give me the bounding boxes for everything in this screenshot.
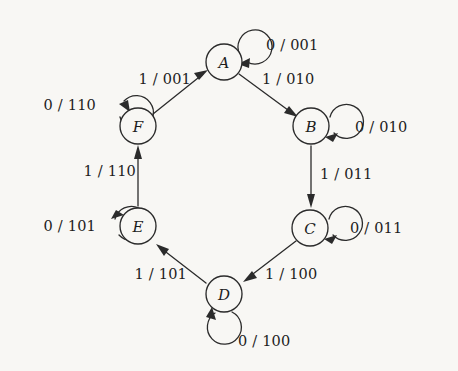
edge-label-c-to-d: 1 / 100 [265, 266, 317, 282]
state-label-f: F [132, 118, 144, 136]
self-loop-label-b: 0 / 010 [355, 119, 407, 135]
edge-d-to-e-arrowhead [156, 244, 169, 256]
self-loop-label-d: 0 / 100 [238, 333, 290, 349]
edge-label-f-to-a: 1 / 001 [139, 71, 191, 87]
edge-f-to-a-arrowhead [194, 70, 208, 80]
edge-label-a-to-b: 1 / 010 [262, 71, 314, 87]
self-loop-label-a: 0 / 001 [266, 37, 318, 53]
edge-e-to-f-arrowhead [134, 145, 142, 159]
self-loop-label-e: 0 / 101 [44, 218, 96, 234]
state-node-f[interactable]: F [120, 108, 156, 144]
state-label-b: B [304, 118, 316, 136]
state-label-d: D [217, 286, 230, 304]
self-loop-label-c: 0 / 011 [350, 220, 402, 236]
edge-b-to-c [307, 146, 315, 208]
state-node-e[interactable]: E [120, 208, 156, 244]
state-node-a[interactable]: A [206, 44, 242, 80]
state-diagram-page: A B C D E F 0 / 001 1 / 010 0 / 010 1 / … [0, 0, 458, 371]
state-label-a: A [217, 54, 230, 72]
edge-label-b-to-c: 1 / 011 [320, 166, 372, 182]
state-node-b[interactable]: B [293, 108, 329, 144]
state-node-c[interactable]: C [292, 210, 328, 246]
state-transition-diagram: A B C D E F 0 / 001 1 / 010 0 / 010 1 / … [0, 0, 458, 371]
edge-b-to-c-arrowhead [307, 194, 315, 208]
edge-label-d-to-e: 1 / 101 [135, 266, 187, 282]
state-label-c: C [304, 220, 316, 238]
state-label-e: E [132, 218, 144, 236]
state-node-d[interactable]: D [206, 276, 242, 312]
edge-label-e-to-f: 1 / 110 [84, 163, 136, 179]
self-loop-label-f: 0 / 110 [44, 97, 96, 113]
